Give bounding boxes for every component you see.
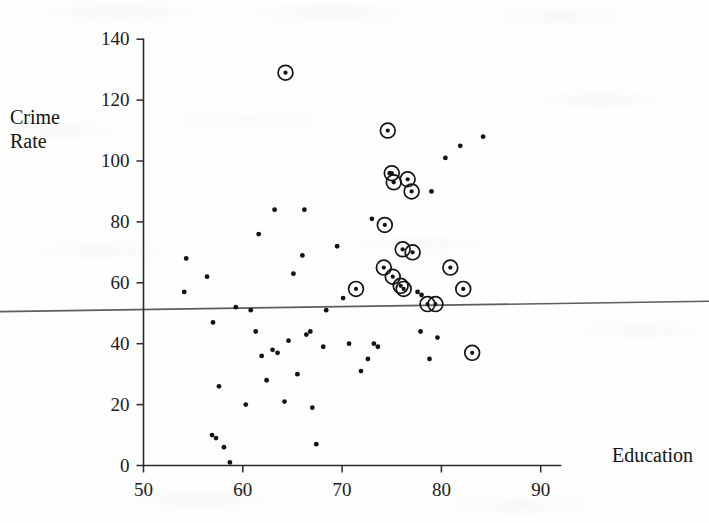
regression-line-group (0, 301, 709, 311)
data-point (233, 305, 238, 310)
point-marker (275, 350, 280, 355)
point-marker (410, 189, 414, 193)
y-tick-label: 60 (74, 273, 130, 292)
highlighted-data-point (376, 260, 391, 275)
point-marker (435, 335, 440, 340)
point-marker (283, 71, 287, 75)
point-marker (184, 256, 189, 261)
point-marker (291, 271, 296, 276)
point-marker (270, 347, 275, 352)
x-tick-label: 80 (411, 480, 471, 499)
point-marker (259, 353, 264, 358)
highlighted-data-point (428, 297, 443, 312)
point-marker (387, 171, 392, 176)
point-marker (264, 378, 269, 383)
x-axis-label: Education (612, 445, 693, 465)
regression-line (0, 301, 709, 311)
point-marker (448, 265, 452, 269)
data-point (275, 350, 280, 355)
data-point (253, 329, 258, 334)
point-marker (433, 302, 437, 306)
highlighted-data-point (349, 281, 364, 296)
point-marker (300, 253, 305, 258)
point-marker (182, 290, 187, 295)
point-marker (418, 329, 423, 334)
data-point (419, 293, 424, 298)
x-tick-label: 60 (213, 480, 273, 499)
point-marker (341, 296, 346, 301)
data-point (210, 433, 215, 438)
point-marker (324, 308, 329, 313)
data-points-group (182, 65, 486, 465)
highlighted-data-point (443, 260, 458, 275)
data-point (387, 171, 392, 176)
point-marker (427, 357, 432, 362)
highlighted-data-point (396, 281, 411, 296)
point-marker (347, 341, 352, 346)
data-point (259, 353, 264, 358)
highlighted-data-point (465, 345, 480, 360)
point-marker (272, 207, 277, 212)
point-marker (366, 357, 371, 362)
data-point (300, 253, 305, 258)
point-marker (375, 344, 380, 349)
data-point (248, 308, 253, 313)
point-marker (386, 128, 390, 132)
y-tick-label: 0 (74, 456, 130, 475)
point-marker (233, 305, 238, 310)
y-tick-label: 40 (74, 334, 130, 353)
point-marker (429, 189, 434, 194)
highlighted-data-point (385, 269, 400, 284)
point-marker (286, 338, 291, 343)
highlighted-data-point (380, 123, 395, 138)
data-point (481, 134, 486, 139)
data-point (270, 347, 275, 352)
point-marker (222, 445, 227, 450)
point-marker (402, 287, 406, 291)
data-point (347, 341, 352, 346)
point-marker (321, 344, 326, 349)
highlighted-data-point (393, 278, 408, 293)
data-point (335, 244, 340, 249)
scatter-plot-canvas (0, 0, 709, 523)
y-tick-label: 80 (74, 212, 130, 231)
data-point (310, 405, 315, 410)
data-point (418, 329, 423, 334)
data-point (304, 332, 309, 337)
data-point (443, 156, 448, 161)
data-point (429, 189, 434, 194)
point-marker (392, 180, 396, 184)
data-point (182, 290, 187, 295)
point-marker (382, 265, 386, 269)
data-point (222, 445, 227, 450)
point-marker (314, 442, 319, 447)
y-axis-label: Crime Rate (10, 106, 120, 153)
data-point (359, 369, 364, 374)
data-point (211, 320, 216, 325)
point-marker (253, 329, 258, 334)
point-marker (419, 293, 424, 298)
point-marker (458, 143, 463, 148)
data-point (371, 341, 376, 346)
data-point (243, 402, 248, 407)
data-point (217, 384, 222, 389)
x-tick-label: 90 (511, 480, 571, 499)
point-marker (310, 405, 315, 410)
data-point (295, 372, 300, 377)
point-marker (282, 399, 287, 404)
highlighted-data-point (278, 65, 293, 80)
point-marker (214, 436, 219, 441)
y-tick-label: 120 (74, 90, 130, 109)
highlighted-data-point (377, 218, 392, 233)
point-marker (205, 274, 210, 279)
data-point (282, 399, 287, 404)
axes-group (137, 39, 561, 472)
point-marker (211, 320, 216, 325)
y-tick-label: 100 (74, 151, 130, 170)
point-marker (461, 287, 465, 291)
point-marker (383, 223, 387, 227)
data-point (291, 271, 296, 276)
point-marker (302, 207, 307, 212)
data-point (272, 207, 277, 212)
data-point (227, 460, 232, 465)
